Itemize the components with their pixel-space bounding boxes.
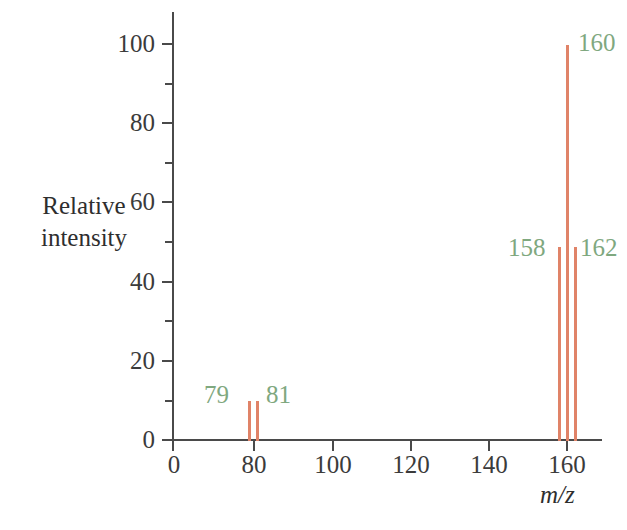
peak-label-158: 158 — [508, 235, 546, 260]
spectrum-plot-area: 79 81 158 160 162 — [0, 0, 627, 530]
peak-label-79: 79 — [204, 382, 229, 407]
mass-spectrum-figure: 100 80 60 40 20 0 0 80 100 120 140 160 R… — [0, 0, 627, 530]
peak-bar-79 — [248, 401, 251, 441]
peak-bar-160 — [566, 45, 569, 441]
peak-bar-162 — [574, 247, 577, 441]
peak-bar-158 — [558, 247, 561, 441]
peak-bar-81 — [256, 401, 259, 441]
peak-label-162: 162 — [580, 235, 618, 260]
peak-label-160: 160 — [578, 30, 616, 55]
peak-label-81: 81 — [266, 382, 291, 407]
